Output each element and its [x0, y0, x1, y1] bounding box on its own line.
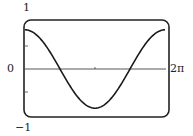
y-max-label: 1 — [23, 2, 30, 13]
x-max-label: 2π — [170, 63, 184, 74]
y-min-label: −1 — [15, 122, 31, 133]
y-zero-label: 0 — [7, 63, 14, 74]
plot-area — [0, 0, 193, 136]
plot-frame — [24, 20, 169, 117]
